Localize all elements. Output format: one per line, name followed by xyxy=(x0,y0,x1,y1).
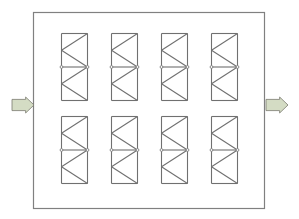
outlet-arrow-icon xyxy=(266,97,288,113)
diagram-canvas xyxy=(0,0,299,219)
inlet-arrow-icon xyxy=(12,97,34,113)
